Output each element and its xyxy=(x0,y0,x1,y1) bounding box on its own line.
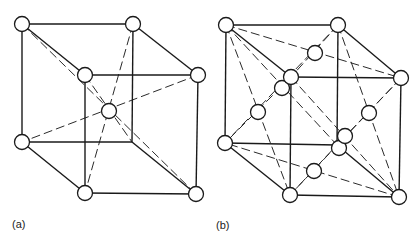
cube-edge-line xyxy=(22,24,85,75)
body-center-atom xyxy=(102,104,117,119)
face-center-atom-bottom xyxy=(307,164,322,179)
corner-atom xyxy=(284,70,299,85)
cube-edge-line xyxy=(225,25,226,143)
cube-edge-line xyxy=(225,143,290,195)
face-center-atom-right xyxy=(362,106,377,121)
face-center-atom-left xyxy=(251,105,266,120)
panel-label-b: (b) xyxy=(216,219,229,231)
cube-edge-line xyxy=(337,25,338,145)
corner-atom xyxy=(392,190,407,205)
corner-atom xyxy=(126,17,141,32)
corner-atom xyxy=(191,68,206,83)
cube-edge-line xyxy=(85,193,196,194)
corner-atom xyxy=(78,186,93,201)
face-center-atom-front xyxy=(338,129,353,144)
bcc-unit-cell xyxy=(15,17,206,202)
cube-edge-line xyxy=(22,142,85,193)
cube-edge-line xyxy=(133,24,198,75)
cube-edge-line xyxy=(225,143,337,145)
crystal-lattice-diagram xyxy=(0,0,418,240)
corner-atom xyxy=(331,18,346,33)
fcc-unit-cell xyxy=(218,18,409,205)
panel-label-a: (a) xyxy=(12,218,25,230)
cube-edge-line xyxy=(132,24,133,142)
corner-atom xyxy=(218,136,233,151)
corner-atom xyxy=(78,68,93,83)
cube-edge-line xyxy=(337,145,399,197)
corner-atom xyxy=(394,71,409,86)
corner-atom xyxy=(189,187,204,202)
cube-edge-line xyxy=(290,77,291,195)
cube-edge-line xyxy=(132,142,196,194)
corner-atom xyxy=(219,18,234,33)
cube-edge-line xyxy=(290,195,399,197)
cube-edge-line xyxy=(291,77,401,78)
cube-edge-line xyxy=(399,78,401,197)
cube-edge-line xyxy=(196,75,198,194)
corner-atom xyxy=(283,188,298,203)
corner-atom xyxy=(15,135,30,150)
corner-atom xyxy=(15,17,30,32)
face-center-atom-top xyxy=(308,46,323,61)
